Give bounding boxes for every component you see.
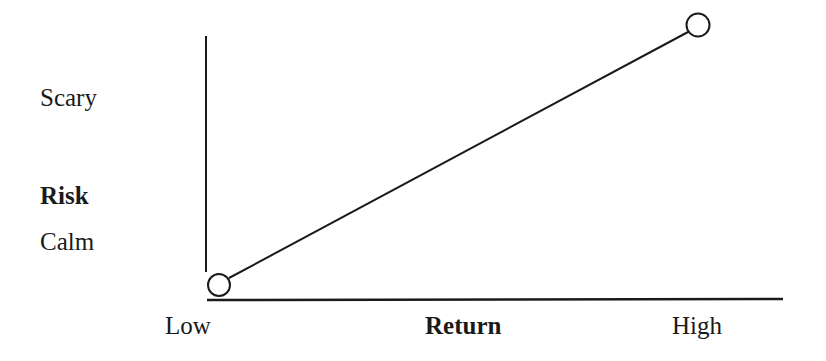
- risk-return-line: [229, 32, 688, 278]
- x-axis-left-label: Low: [165, 313, 211, 338]
- risk-return-diagram: [0, 0, 826, 361]
- y-axis-top-label: Scary: [40, 85, 97, 110]
- high-point-marker: [687, 14, 710, 37]
- x-axis-title: Return: [425, 313, 501, 338]
- x-axis-line: [207, 299, 783, 300]
- x-axis-right-label: High: [672, 313, 722, 338]
- y-axis-bottom-label: Calm: [40, 229, 94, 254]
- low-point-marker: [208, 274, 230, 296]
- y-axis-title: Risk: [40, 183, 89, 208]
